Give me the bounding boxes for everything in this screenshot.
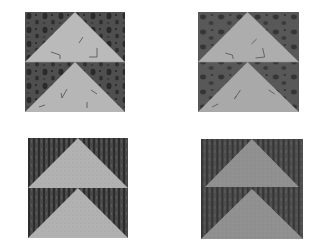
quilt-block-top-left — [25, 12, 125, 112]
quilt-block-bottom-left — [28, 138, 128, 238]
quilt-block-top-right — [198, 12, 299, 112]
quilt-block-bottom-right — [201, 139, 303, 239]
flying-geese-pattern — [198, 12, 299, 112]
flying-geese-pattern — [25, 12, 125, 112]
flying-geese-pattern — [201, 139, 303, 239]
flying-geese-pattern — [28, 138, 128, 238]
